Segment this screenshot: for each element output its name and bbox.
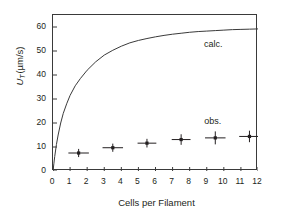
y-tick-label: 20 [20,118,46,127]
x-tick-label: 9 [198,177,214,186]
data-point-marker [145,142,148,145]
tick-marks [53,27,258,171]
y-axis-label: UT (µm/s) [14,0,26,136]
x-tick-label: 1 [61,177,77,186]
x-tick-label: 12 [249,177,265,186]
y-tick-label: 10 [20,142,46,151]
x-tick-label: 2 [78,177,94,186]
x-axis-label: Cells per Filament [0,197,287,208]
plot-area [52,14,257,170]
x-tick-label: 4 [112,177,128,186]
calc-series-annotation: calc. [204,39,223,49]
x-tick-label: 8 [181,177,197,186]
y-tick-label: 60 [20,22,46,31]
y-tick-label: 30 [20,94,46,103]
obs-series-annotation: obs. [204,116,221,126]
x-axis-label-text: Cells per Filament [118,197,195,208]
calc-curve-line [53,29,258,171]
data-point-marker [214,136,217,139]
x-tick-label: 11 [232,177,248,186]
chart-figure: UT (µm/s) 0102030405060 0123456789101112… [0,0,287,220]
data-point-marker [77,151,80,154]
plot-canvas [53,15,258,171]
x-tick-label: 6 [147,177,163,186]
x-tick-label: 0 [44,177,60,186]
data-point-marker [180,138,183,141]
x-tick-label: 10 [215,177,231,186]
x-tick-label: 5 [129,177,145,186]
data-point-marker [111,146,114,149]
x-tick-label: 3 [95,177,111,186]
y-tick-label: 0 [20,166,46,175]
x-tick-label: 7 [164,177,180,186]
y-axis-symbol: U [14,79,25,86]
y-tick-label: 40 [20,70,46,79]
y-tick-label: 50 [20,46,46,55]
data-point-marker [248,135,251,138]
obs-data-points [68,131,258,157]
